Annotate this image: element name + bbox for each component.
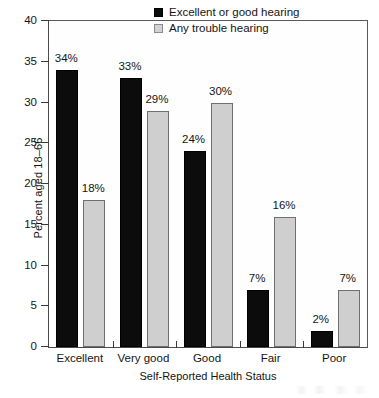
bar-value-label: 30% [209,85,232,97]
x-axis-tick [113,341,114,348]
bar-chart-figure: Percent aged 18–66 0510152025303540 Self… [0,0,379,398]
bar [247,290,269,347]
black-square-icon [154,8,163,17]
bar-value-label: 34% [55,52,78,64]
y-axis-tick: 25 [41,142,49,143]
y-axis-tick: 30 [41,102,49,103]
legend-entry-any-trouble-hearing: Any trouble hearing [154,22,299,34]
x-axis-tick [303,341,304,348]
x-axis-category-label: Good [193,352,221,364]
y-axis-tick: 35 [41,61,49,62]
bar [120,78,142,347]
y-axis-tick-label: 25 [24,136,37,148]
bar-value-label: 7% [339,272,356,284]
y-axis-tick: 0 [41,346,49,347]
y-axis-tick: 20 [41,183,49,184]
y-axis-tick-label: 0 [31,340,37,352]
x-axis-category-label: Poor [322,352,346,364]
x-axis-title: Self-Reported Health Status [48,370,368,382]
bar [147,111,169,347]
bar-value-label: 24% [182,133,205,145]
scan-artifact [296,386,368,394]
x-axis-tick [240,341,241,348]
chart-legend: Excellent or good hearing Any trouble he… [154,6,299,38]
y-axis-tick: 5 [41,305,49,306]
y-axis-tick-label: 10 [24,259,37,271]
y-axis-tick-label: 30 [24,96,37,108]
y-axis-tick-label: 15 [24,218,37,230]
y-axis-tick-label: 35 [24,55,37,67]
bar [274,217,296,347]
legend-label: Any trouble hearing [169,22,269,34]
bar [56,70,78,347]
bar-value-label: 2% [312,313,329,325]
bar [83,200,105,347]
gray-square-icon [154,24,163,33]
bar [184,151,206,347]
legend-label: Excellent or good hearing [169,6,299,18]
y-axis-tick: 15 [41,224,49,225]
y-axis-tick-label: 5 [31,299,37,311]
x-axis-category-label: Very good [117,352,169,364]
bar-value-label: 29% [145,93,168,105]
x-axis-category-label: Fair [261,352,281,364]
y-axis-tick-label: 20 [24,177,37,189]
bar [211,103,233,348]
y-axis-tick-label: 40 [24,14,37,26]
bar-value-label: 33% [118,60,141,72]
legend-entry-excellent-or-good-hearing: Excellent or good hearing [154,6,299,18]
bar-value-label: 7% [249,272,266,284]
x-axis-category-label: Excellent [56,352,103,364]
x-axis-tick [176,341,177,348]
bar [338,290,360,347]
bar-value-label: 16% [273,199,296,211]
y-axis-tick: 10 [41,265,49,266]
y-axis-tick: 40 [41,20,49,21]
bar [311,331,333,347]
bar-value-label: 18% [82,182,105,194]
